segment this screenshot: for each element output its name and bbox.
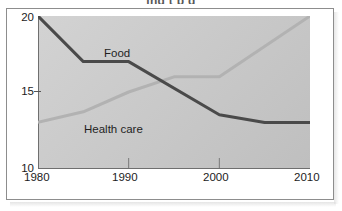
series-annotation-food: Food <box>104 48 130 60</box>
y-tick-label-15: 15 <box>8 86 34 98</box>
series-line-food <box>38 16 310 122</box>
x-tick-label-2010: 2010 <box>294 172 320 184</box>
x-tick-marks <box>129 158 220 168</box>
x-tick-label-1980: 1980 <box>24 172 50 184</box>
x-tick-label-2000: 2000 <box>203 172 229 184</box>
line-chart-canvas <box>38 16 310 168</box>
page-shadow-bottom <box>10 202 336 207</box>
clipped-heading-text: ing t p g <box>0 0 342 4</box>
x-axis-line <box>38 168 310 169</box>
y-tick-label-20: 20 <box>8 12 34 24</box>
series-line-health-care <box>38 16 310 122</box>
series-annotation-health-care: Health care <box>84 124 143 136</box>
x-tick-label-1990: 1990 <box>112 172 138 184</box>
x-axis-labels: 1980 1990 2000 2010 <box>0 172 342 192</box>
